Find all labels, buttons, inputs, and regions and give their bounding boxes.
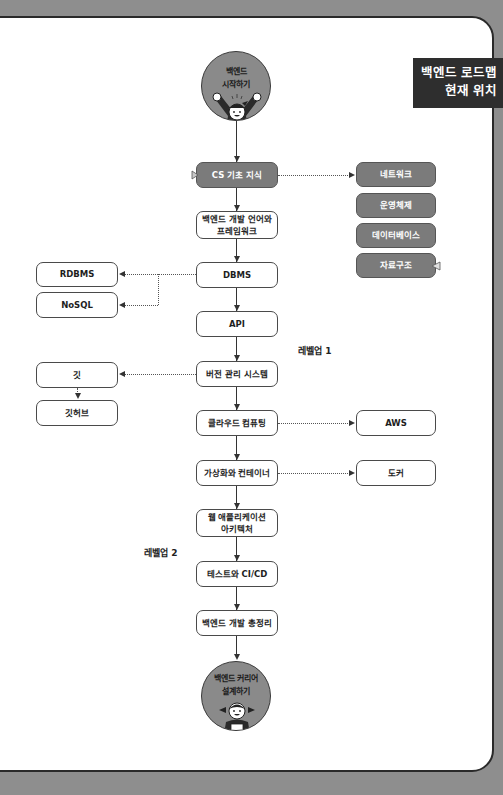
dotted-connector bbox=[124, 305, 158, 306]
node-version-control[interactable]: 버전 관리 시스템 bbox=[196, 361, 278, 387]
arrow-head-icon bbox=[349, 470, 355, 476]
dotted-connector bbox=[124, 274, 196, 275]
level-up-2-label: 레벨업 2 bbox=[144, 546, 177, 559]
node-docker[interactable]: 도커 bbox=[356, 460, 436, 486]
start-node[interactable]: 백엔드 시작하기 bbox=[201, 51, 271, 121]
arrow-head-icon bbox=[119, 371, 125, 377]
node-cs-basics[interactable]: CS 기초 지식 bbox=[196, 162, 278, 188]
node-virtualization[interactable]: 가상화와 컨테이너 bbox=[196, 460, 278, 486]
dotted-connector bbox=[124, 374, 196, 375]
node-nosql[interactable]: NoSQL bbox=[36, 292, 118, 318]
node-aws[interactable]: AWS bbox=[356, 410, 436, 436]
node-backend-summary[interactable]: 백엔드 개발 총정리 bbox=[196, 610, 278, 636]
node-github[interactable]: 깃허브 bbox=[36, 400, 118, 426]
node-network[interactable]: 네트워크 bbox=[356, 162, 436, 187]
current-marker-icon bbox=[191, 170, 199, 180]
node-dbms[interactable]: DBMS bbox=[196, 262, 278, 288]
node-rdbms[interactable]: RDBMS bbox=[36, 262, 118, 287]
arrow-head-icon bbox=[349, 420, 355, 426]
node-cloud-computing[interactable]: 클라우드 컴퓨팅 bbox=[196, 410, 278, 436]
arrow-head-icon bbox=[119, 302, 125, 308]
arrow-head-icon bbox=[349, 172, 355, 178]
dotted-connector bbox=[158, 274, 159, 305]
node-web-architecture[interactable]: 웹 애플리케이션 아키텍처 bbox=[196, 509, 278, 537]
arrow-head-icon bbox=[75, 393, 81, 399]
node-language-framework[interactable]: 백엔드 개발 언어와 프레임워크 bbox=[196, 211, 278, 239]
dotted-connector bbox=[278, 175, 350, 176]
node-database[interactable]: 데이터베이스 bbox=[356, 223, 436, 248]
end-node[interactable]: 백엔드 커리어 설계하기 bbox=[201, 661, 271, 731]
dotted-connector bbox=[278, 473, 350, 474]
node-git[interactable]: 깃 bbox=[36, 362, 118, 388]
current-position-banner: 백엔드 로드맵 현재 위치 bbox=[413, 58, 503, 108]
level-up-1-label: 레벨업 1 bbox=[298, 344, 331, 357]
connector-line bbox=[236, 636, 237, 656]
node-operating-system[interactable]: 운영체제 bbox=[356, 193, 436, 218]
mascot-girl-icon bbox=[202, 700, 271, 731]
cheering-mascot-icon bbox=[202, 88, 271, 121]
dotted-connector bbox=[278, 423, 350, 424]
current-marker-icon bbox=[431, 261, 441, 271]
end-label: 백엔드 커리어 설계하기 bbox=[202, 673, 270, 699]
node-data-structure[interactable]: 자료구조 bbox=[356, 253, 436, 278]
node-api[interactable]: API bbox=[196, 311, 278, 337]
arrow-head-icon bbox=[119, 271, 125, 277]
node-test-cicd[interactable]: 테스트와 CI/CD bbox=[196, 561, 278, 587]
arrow-head-icon bbox=[234, 654, 240, 660]
